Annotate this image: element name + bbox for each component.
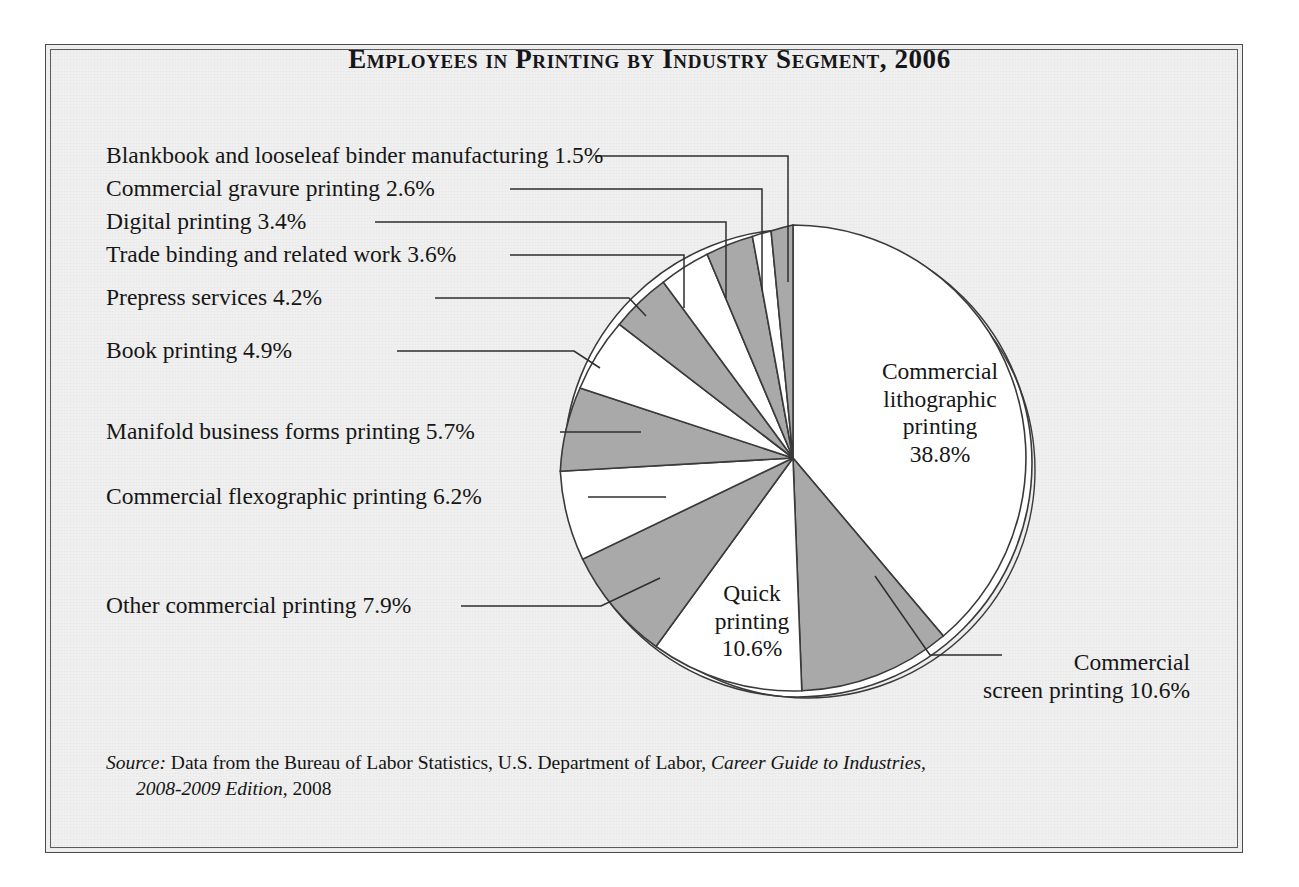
callout-blankbook: Blankbook and looseleaf binder manufactu… — [106, 144, 603, 168]
source-work-title: Career Guide to Industries, — [711, 752, 926, 773]
leader-line-prepress — [435, 298, 646, 316]
pie-label-line: printing — [840, 413, 1040, 441]
source-year: 2008 — [293, 778, 332, 799]
callout-book: Book printing 4.9% — [106, 339, 292, 363]
pie-label-line: Quick — [672, 580, 832, 608]
pie-label-line: printing — [672, 608, 832, 636]
pie-label-line: lithographic — [840, 386, 1040, 414]
leader-line-book — [397, 351, 600, 368]
callout-prepress: Prepress services 4.2% — [106, 286, 322, 310]
callout-line: Commercial — [820, 648, 1190, 676]
source-edition: 2008-2009 Edition, — [136, 778, 288, 799]
pie-label-line: Commercial — [840, 358, 1040, 386]
callout-manifold: Manifold business forms printing 5.7% — [106, 420, 475, 444]
figure-plate: Employees in Printing by Industry Segmen… — [0, 0, 1299, 887]
pie-label-line: 38.8% — [840, 441, 1040, 469]
callout-other-commercial: Other commercial printing 7.9% — [106, 594, 411, 618]
callout-trade-binding: Trade binding and related work 3.6% — [106, 243, 456, 267]
callout-gravure: Commercial gravure printing 2.6% — [106, 177, 435, 201]
callout-flexographic: Commercial flexographic printing 6.2% — [106, 485, 482, 509]
pie-label-quick-printing: Quick printing 10.6% — [672, 580, 832, 663]
source-text: Data from the Bureau of Labor Statistics… — [171, 752, 706, 773]
source-note: Source: Data from the Bureau of Labor St… — [106, 750, 1166, 803]
callout-line: screen printing 10.6% — [820, 676, 1190, 704]
source-label: Source: — [106, 752, 166, 773]
callout-digital: Digital printing 3.4% — [106, 210, 306, 234]
pie-label-line: 10.6% — [672, 635, 832, 663]
pie-label-commercial-lithographic: Commercial lithographic printing 38.8% — [840, 358, 1040, 469]
callout-commercial-screen-printing: Commercial screen printing 10.6% — [820, 648, 1190, 704]
